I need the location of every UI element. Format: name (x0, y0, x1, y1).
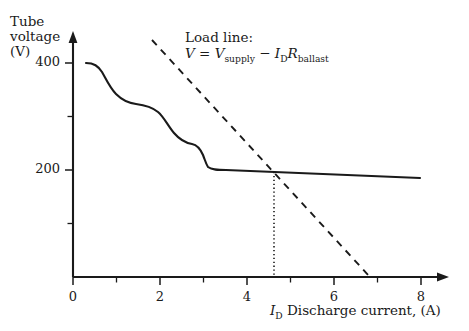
y-axis-ticks (65, 63, 73, 224)
equation-lhs: V (185, 45, 195, 61)
equation-term-vsupply: Vsupply (215, 45, 255, 61)
x-axis-title: ID Discharge current, (A) (270, 303, 441, 318)
x-axis-title-text: Discharge current, (A) (287, 302, 441, 318)
y-axis-title-line-2: voltage (10, 29, 60, 44)
x-axis-title-symbol: ID (270, 302, 283, 318)
y-tick-label-400: 400 (26, 55, 60, 70)
equation-minus: − (259, 45, 270, 61)
x-axis (73, 273, 449, 282)
equation-term-resistance-subscript: ballast (298, 53, 329, 64)
equation-equals: = (199, 45, 210, 61)
load-line (152, 40, 370, 277)
load-line-annotation-title: Load line: (185, 30, 329, 45)
x-axis-title-symbol-subscript: D (275, 310, 282, 321)
equation-term-current: ID (275, 45, 288, 61)
x-tick-label-4: 4 (237, 290, 257, 305)
y-axis-title-line-1: Tube (10, 14, 60, 29)
y-tick-label-200: 200 (26, 162, 60, 177)
load-line-equation: V = Vsupply − IDRballast (185, 46, 329, 61)
x-tick-label-0: 0 (63, 290, 83, 305)
figure-canvas: Tube voltage (V) 400 200 0 2 4 6 8 ID Di… (0, 0, 469, 331)
equation-term-resistance: Rballast (288, 45, 329, 61)
y-axis (69, 31, 78, 277)
y-axis-title: Tube voltage (V) (10, 14, 60, 59)
x-axis-ticks (73, 277, 421, 285)
tube-characteristic-curve (86, 63, 420, 178)
equation-term-vsupply-subscript: supply (224, 53, 254, 64)
load-line-annotation: Load line: V = Vsupply − IDRballast (185, 30, 329, 61)
equation-term-current-subscript: D (280, 53, 287, 64)
x-tick-label-2: 2 (150, 290, 170, 305)
